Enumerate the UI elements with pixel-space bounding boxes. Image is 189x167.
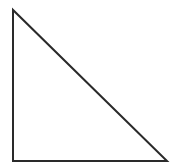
figure-canvas	[0, 0, 189, 167]
triangle-drawing	[0, 0, 189, 167]
